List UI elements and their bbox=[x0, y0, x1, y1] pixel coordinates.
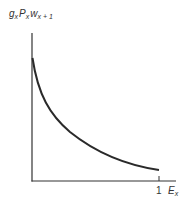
x-tick-label-1: 1 bbox=[156, 185, 162, 196]
x-axis-label: Ex bbox=[168, 185, 179, 197]
chart-canvas: gxPxwx + 1 1 Ex bbox=[0, 0, 190, 203]
y-axis-label: gxPxwx + 1 bbox=[9, 8, 53, 20]
curve-line bbox=[33, 58, 160, 170]
